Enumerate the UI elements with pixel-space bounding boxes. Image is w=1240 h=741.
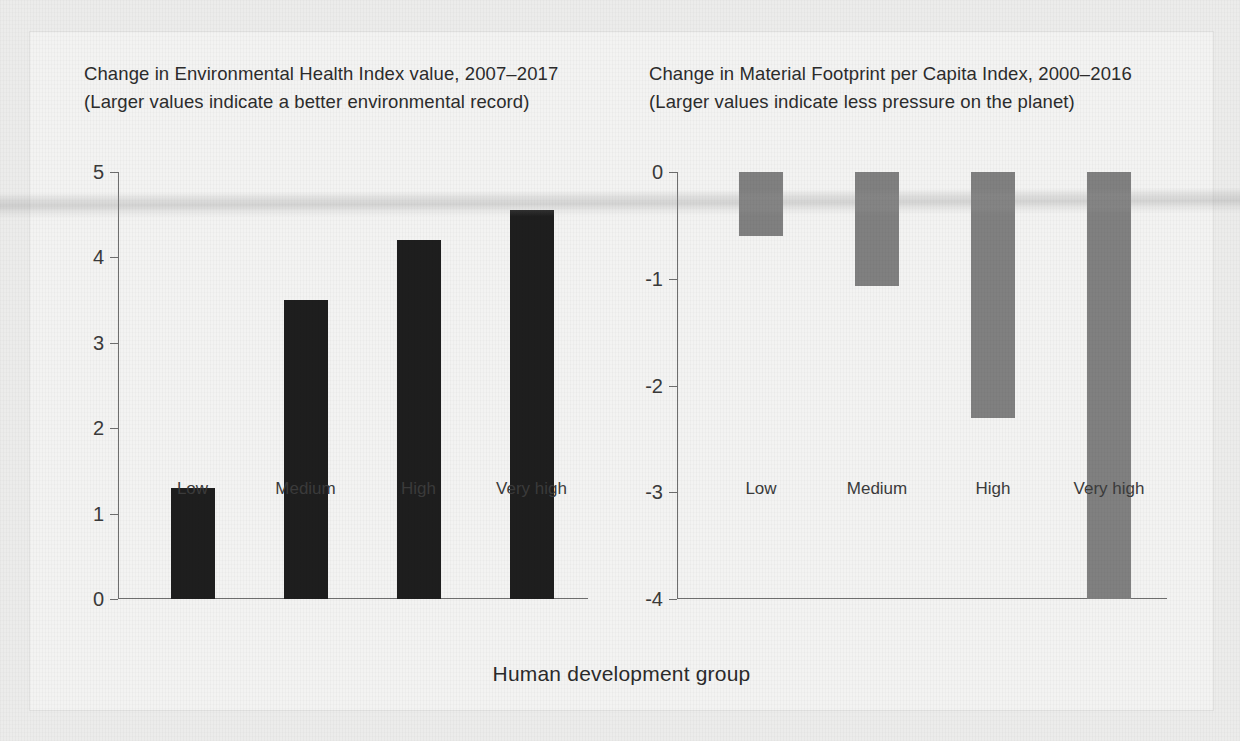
category-label-very-high: Very high — [496, 479, 567, 499]
y-tick-label: -2 — [645, 374, 663, 397]
right-chart-title: Change in Material Footprint per Capita … — [649, 60, 1132, 116]
bar-high — [971, 172, 1015, 418]
y-tick-mark — [110, 514, 118, 515]
right-chart-title-line2: (Larger values indicate less pressure on… — [649, 88, 1132, 116]
y-tick-label: -1 — [645, 267, 663, 290]
y-tick-mark — [669, 599, 677, 600]
category-label-low: Low — [745, 479, 776, 499]
y-tick-label: 1 — [93, 502, 104, 525]
right-y-axis — [677, 172, 678, 599]
bar-medium — [284, 300, 328, 599]
y-tick-mark — [110, 172, 118, 173]
y-tick-label: -4 — [645, 588, 663, 611]
y-tick-label: 0 — [652, 161, 663, 184]
category-label-medium: Medium — [847, 479, 907, 499]
category-label-low: Low — [177, 479, 208, 499]
left-plot-area: 543210 — [118, 172, 588, 599]
y-tick-label: 3 — [93, 331, 104, 354]
left-chart-title-line1: Change in Environmental Health Index val… — [84, 63, 558, 84]
left-chart-title: Change in Environmental Health Index val… — [84, 60, 558, 116]
right-chart-title-line1: Change in Material Footprint per Capita … — [649, 63, 1132, 84]
category-label-high: High — [976, 479, 1011, 499]
bar-very-high — [1087, 172, 1131, 599]
category-label-high: High — [401, 479, 436, 499]
bar-low — [739, 172, 783, 236]
page-canvas: Change in Environmental Health Index val… — [0, 0, 1240, 741]
bar-medium — [855, 172, 899, 286]
y-tick-mark — [110, 343, 118, 344]
x-axis-title: Human development group — [30, 662, 1213, 686]
y-tick-label: -3 — [645, 481, 663, 504]
figure-panel: Change in Environmental Health Index val… — [30, 32, 1213, 710]
right-plot-area: 0-1-2-3-4 — [677, 172, 1167, 599]
y-tick-mark — [669, 386, 677, 387]
y-tick-mark — [110, 428, 118, 429]
category-label-medium: Medium — [275, 479, 335, 499]
left-y-axis — [118, 172, 119, 599]
chart-material-footprint-index: Change in Material Footprint per Capita … — [605, 32, 1205, 710]
bar-high — [397, 240, 441, 599]
y-tick-mark — [110, 257, 118, 258]
bar-low — [171, 488, 215, 599]
y-tick-mark — [669, 172, 677, 173]
y-tick-mark — [110, 599, 118, 600]
chart-environmental-health-index: Change in Environmental Health Index val… — [40, 32, 620, 710]
category-label-very-high: Very high — [1074, 479, 1145, 499]
y-tick-label: 5 — [93, 161, 104, 184]
y-tick-label: 2 — [93, 417, 104, 440]
y-tick-mark — [669, 492, 677, 493]
left-chart-title-line2: (Larger values indicate a better environ… — [84, 88, 558, 116]
bar-very-high — [510, 210, 554, 599]
y-tick-label: 0 — [93, 588, 104, 611]
y-tick-mark — [669, 279, 677, 280]
y-tick-label: 4 — [93, 246, 104, 269]
